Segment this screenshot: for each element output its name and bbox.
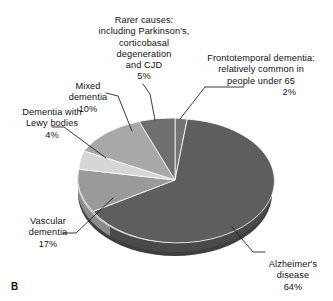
- slice-label-vascular-text: Vascular dementia: [29, 216, 68, 237]
- slice-label-lewy-bodies: Dementia with Lewy bodies 4%: [2, 96, 102, 152]
- slice-percent-frontotemporal: 2%: [190, 87, 332, 98]
- slice-label-rarer-causes-text: Rarer causes: including Parkinson's, cor…: [99, 15, 190, 70]
- slice-label-alzheimers: Alzheimer's disease 64%: [256, 248, 330, 301]
- slice-label-frontotemporal: Frontotemporal dementia: relatively comm…: [190, 42, 332, 109]
- slice-percent-alzheimers: 64%: [256, 282, 330, 293]
- slice-label-alzheimers-text: Alzheimer's disease: [269, 259, 317, 280]
- slice-percent-vascular: 17%: [6, 239, 90, 250]
- pie-chart-figure: Rarer causes: including Parkinson's, cor…: [0, 0, 333, 301]
- slice-label-frontotemporal-text: Frontotemporal dementia: relatively comm…: [207, 53, 315, 85]
- panel-letter: B: [11, 281, 18, 292]
- slice-percent-lewy-bodies: 4%: [2, 130, 102, 141]
- slice-label-lewy-bodies-text: Dementia with Lewy bodies: [22, 107, 82, 128]
- slice-label-vascular: Vascular dementia 17%: [6, 205, 90, 261]
